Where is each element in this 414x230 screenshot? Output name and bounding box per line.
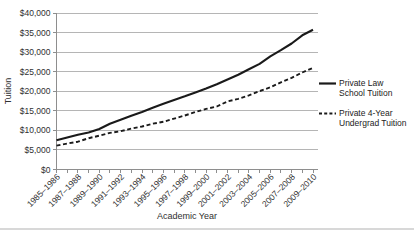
solid-line-icon [319,82,336,85]
y-tick-label: $30,000 [20,47,51,57]
legend-label-law: Private Law School Tuition [339,78,392,99]
y-tick-label: $10,000 [20,125,51,135]
y-tick-label: $40,000 [20,8,51,18]
legend-label-undergrad-line2: Undergrad Tuition [339,118,407,128]
legend-label-law-line2: School Tuition [339,88,392,98]
y-tick-label: $20,000 [20,86,51,96]
dashed-line-icon [319,112,336,115]
legend: Private Law School Tuition Private 4-Yea… [319,78,414,137]
series-line-undergrad [57,68,314,146]
y-tick-label: $35,000 [20,28,51,38]
y-tick-label: $25,000 [20,67,51,77]
legend-entry-undergrad: Private 4-Year Undergrad Tuition [319,108,414,129]
legend-label-undergrad: Private 4-Year Undergrad Tuition [339,108,407,129]
y-tick-label: $15,000 [20,106,51,116]
legend-label-law-line1: Private Law [339,78,392,88]
x-axis-title: Academic Year [0,211,374,221]
y-tick-label: $5,000 [25,145,51,155]
y-tick-label: $0 [41,165,51,175]
legend-entry-law: Private Law School Tuition [319,78,414,99]
tuition-line-chart: $0$5,000$10,000$15,000$20,000$25,000$30,… [0,0,414,230]
legend-label-undergrad-line1: Private 4-Year [339,108,407,118]
y-axis-title: Tuition [3,41,15,141]
